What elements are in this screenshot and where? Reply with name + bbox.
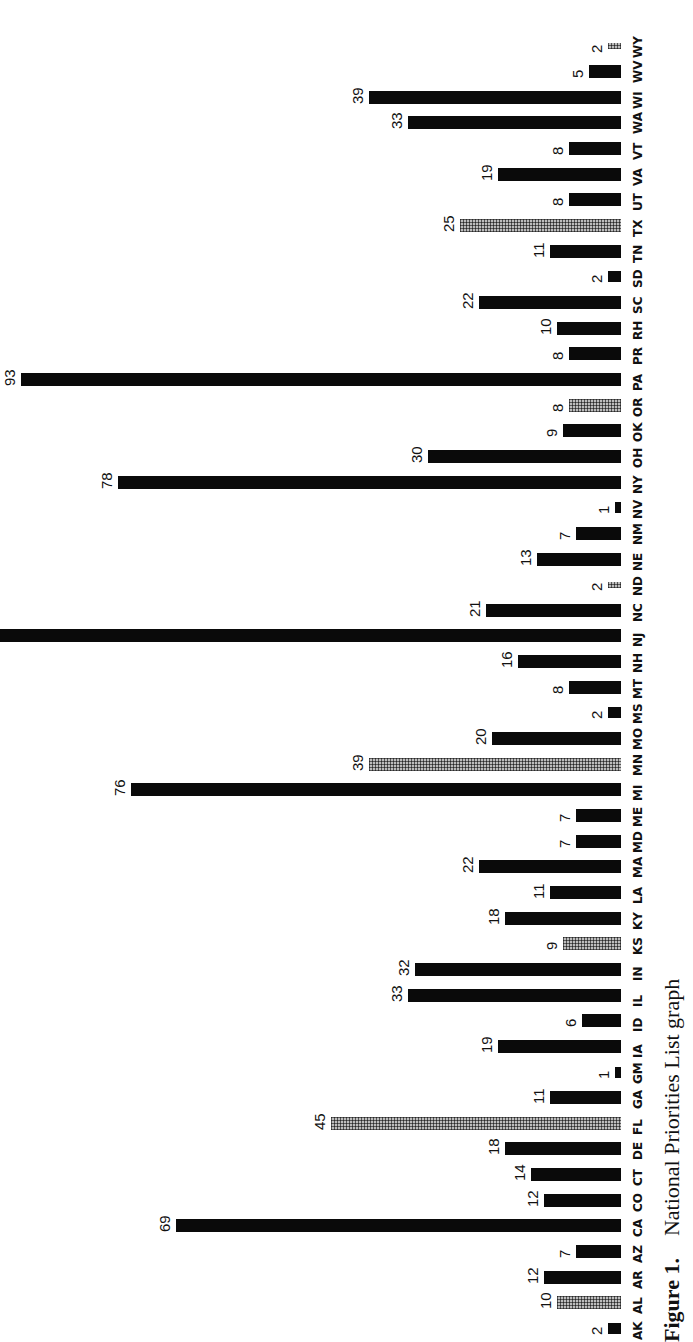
category-label-az: AZ <box>632 1245 644 1263</box>
category-label-sd: SD <box>632 270 644 289</box>
category-label-ga: GA <box>632 1090 644 1109</box>
bar-la <box>550 886 621 899</box>
category-label-la: LA <box>632 887 644 904</box>
category-label-md: MD <box>632 831 644 853</box>
bar-ar <box>544 1271 621 1284</box>
bar-oh <box>428 450 622 463</box>
figure-title: National Priorities List graph <box>659 979 684 1236</box>
bar-ia <box>498 1040 621 1053</box>
bar-ky <box>505 912 621 925</box>
bar-mi <box>131 783 621 796</box>
value-label-me: 7 <box>557 814 572 822</box>
category-label-ia: IA <box>632 1044 644 1058</box>
value-label-tn: 11 <box>531 242 546 258</box>
category-label-nc: NC <box>632 603 644 622</box>
category-label-de: DE <box>632 1142 644 1160</box>
category-label-co: CO <box>632 1193 644 1212</box>
bar-nm <box>576 527 621 540</box>
category-label-mo: MO <box>632 728 644 750</box>
category-label-ok: OK <box>632 423 644 443</box>
category-label-mn: MN <box>632 754 644 776</box>
value-label-ny: 78 <box>99 472 114 489</box>
value-label-in: 32 <box>396 959 411 976</box>
value-label-nm: 7 <box>557 532 572 540</box>
value-label-ks: 9 <box>544 942 559 950</box>
bar-co <box>544 1194 621 1207</box>
value-label-ky: 18 <box>486 908 501 925</box>
category-label-ca: CA <box>632 1219 644 1237</box>
bar-wa <box>408 116 621 129</box>
value-label-ne: 13 <box>518 549 533 566</box>
value-label-ar: 12 <box>525 1267 540 1284</box>
category-label-id: ID <box>632 1018 644 1032</box>
bar-pr <box>569 347 621 360</box>
category-label-pa: PA <box>632 374 644 391</box>
value-label-mn: 39 <box>350 754 365 771</box>
value-label-wi: 39 <box>350 87 365 104</box>
bar-md <box>576 835 621 848</box>
value-label-vt: 8 <box>550 147 565 155</box>
value-label-al: 10 <box>538 1293 553 1310</box>
value-label-il: 33 <box>389 985 404 1002</box>
value-label-nv: 1 <box>596 506 611 514</box>
category-label-va: VA <box>632 168 644 186</box>
category-label-nd: ND <box>632 576 644 596</box>
category-label-ne: NE <box>632 552 644 570</box>
bar-nv <box>615 502 621 513</box>
category-label-ma: MA <box>632 857 644 878</box>
bar-ms <box>608 707 621 718</box>
bar-mn <box>369 758 621 771</box>
category-label-fl: FL <box>632 1119 644 1135</box>
value-label-ut: 8 <box>550 198 565 206</box>
value-label-sd: 2 <box>589 275 604 283</box>
category-label-il: IL <box>632 994 644 1006</box>
bar-wv <box>589 65 621 78</box>
bar-tx <box>460 219 621 232</box>
figure-label: Figure 1. <box>659 1258 684 1342</box>
bar-ny <box>118 476 621 489</box>
bar-ak <box>608 1323 621 1334</box>
bar-fl <box>331 1117 621 1130</box>
category-label-mi: MI <box>632 785 644 801</box>
value-label-mi: 76 <box>112 780 127 797</box>
bar-mo <box>492 732 621 745</box>
category-label-ms: MS <box>632 704 644 725</box>
category-label-rh: RH <box>632 320 644 339</box>
bar-or <box>569 399 621 412</box>
bar-ca <box>176 1219 621 1232</box>
bar-sc <box>479 296 621 309</box>
category-label-nj: NJ <box>632 633 644 648</box>
category-label-in: IN <box>632 966 644 981</box>
category-label-nm: NM <box>632 523 644 545</box>
value-label-nd: 2 <box>589 583 604 591</box>
value-label-la: 11 <box>531 883 546 899</box>
bar-ut <box>569 193 621 206</box>
bar-ga <box>550 1091 621 1104</box>
value-label-nc: 21 <box>467 600 482 617</box>
value-label-nh: 16 <box>499 651 514 668</box>
bar-nc <box>486 604 621 617</box>
bar-ma <box>479 860 621 873</box>
bar-il <box>408 989 621 1002</box>
value-label-de: 18 <box>486 1139 501 1156</box>
category-label-ks: KS <box>632 937 644 955</box>
category-label-ct: CT <box>632 1169 644 1186</box>
bar-tn <box>550 245 621 258</box>
category-label-or: OR <box>632 397 644 416</box>
value-label-md: 7 <box>557 839 572 847</box>
value-label-wv: 5 <box>570 70 585 78</box>
bar-nh <box>518 655 621 668</box>
value-label-mo: 20 <box>473 728 488 745</box>
category-label-ny: NY <box>632 475 644 494</box>
value-label-ms: 2 <box>589 711 604 719</box>
bar-ok <box>563 424 621 437</box>
category-label-ut: UT <box>632 193 644 211</box>
bar-ct <box>531 1168 621 1181</box>
value-label-gm: 1 <box>596 1070 611 1078</box>
value-label-fl: 45 <box>312 1113 327 1130</box>
value-label-sc: 22 <box>460 292 475 309</box>
category-label-wv: WV <box>632 61 644 84</box>
bar-ks <box>563 937 621 950</box>
bar-id <box>582 1014 621 1027</box>
category-label-wi: WI <box>632 91 644 109</box>
